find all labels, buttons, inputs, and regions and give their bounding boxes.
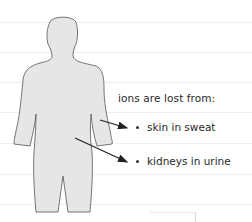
list-item: skin in sweat (136, 121, 215, 133)
list-item: kidneys in urine (136, 155, 231, 167)
body-diagram (0, 0, 252, 222)
diagram-heading: ions are lost from: (118, 92, 215, 104)
bullet-icon (136, 160, 139, 163)
item-label: skin in sweat (147, 121, 215, 133)
page-edge (150, 212, 196, 222)
human-body-silhouette-icon (14, 17, 112, 212)
item-label: kidneys in urine (147, 155, 231, 167)
bullet-icon (136, 126, 139, 129)
